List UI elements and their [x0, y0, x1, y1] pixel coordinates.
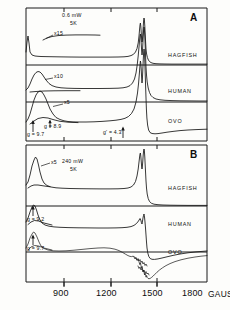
panel-a-power-label: 0.6 mW: [62, 13, 82, 18]
panel-b-frame: [26, 145, 207, 282]
panel-a-sample-ovo: OVO: [168, 119, 182, 124]
panel-b-power-label: 240 mW: [62, 159, 83, 164]
panel-a-sample-hagfish: HAGFISH: [168, 53, 198, 58]
panel-a-temperature-label: 5K: [70, 21, 77, 26]
axis-tick-label-900: 900: [53, 289, 69, 298]
panel-a-letter: A: [190, 13, 197, 23]
axis-tick-label-1800: 1800: [182, 289, 203, 298]
panel-b-ticks: [64, 145, 157, 286]
panel-a-sample-human: HUMAN: [168, 89, 192, 94]
trace-panel-b-hagfish: [26, 149, 207, 205]
panel-b-letter: B: [190, 150, 197, 160]
panel-a-gain-human: x10: [54, 74, 63, 79]
panel-a-annotation-g-prime-4-3: g' = 4.3: [103, 130, 122, 135]
panel-b-sample-ovo: OVO: [168, 250, 182, 255]
epr-spectra-figure: A 0.6 mW 5K x15 x10 x5 HAGFISH HUMAN OVO…: [0, 0, 230, 310]
panel-a-annotation-g-8-9: g = 8.9: [44, 124, 61, 129]
panel-a-gain-ovo: x5: [64, 100, 70, 105]
panel-a-annotation-g-9-7: g = 9.7: [27, 132, 44, 137]
panel-b-sample-human: HUMAN: [168, 222, 192, 227]
axis-tick-label-1200: 1200: [96, 289, 117, 298]
panel-b-sample-hagfish: HAGFISH: [168, 186, 198, 191]
axis-tick-label-1500: 1500: [142, 289, 163, 298]
panel-a-gain-hagfish: x15: [54, 31, 63, 36]
axis-unit-label: GAUSS: [208, 290, 230, 298]
panel-b-gain-hagfish: x5: [51, 160, 57, 165]
panel-b-arrows: [31, 206, 35, 246]
panel-b-annotation-g-9-2: g = 9.2: [27, 217, 44, 222]
bottom-axis-ticks: [64, 282, 157, 287]
panel-b-annotation-g-9-7: g = 9.7: [27, 246, 44, 251]
panel-b-temperature-label: 5K: [70, 167, 77, 172]
